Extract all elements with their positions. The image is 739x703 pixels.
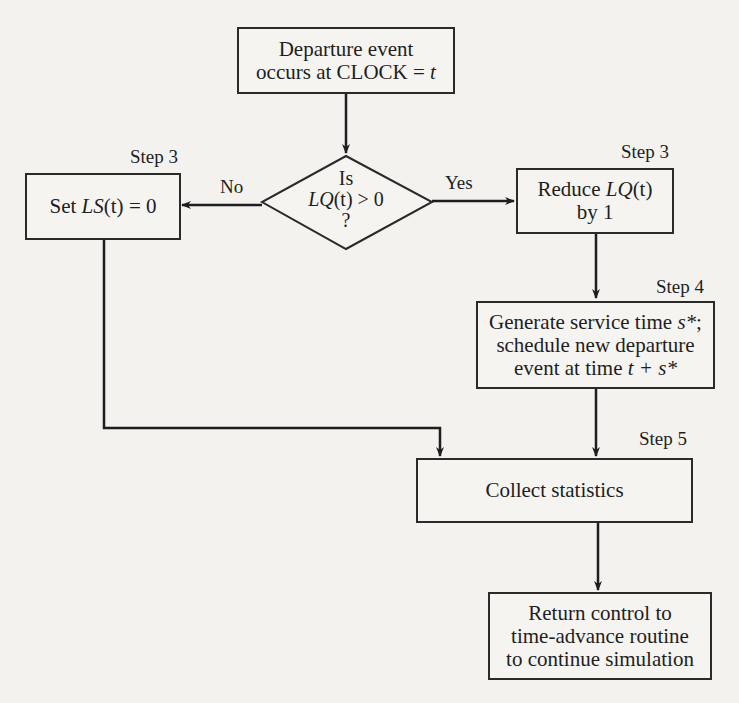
return-line1: Return control to <box>528 602 671 625</box>
decision-node-text: Is LQ(t) > 0 ? <box>276 168 416 231</box>
generate-line3: event at time t + s* <box>514 357 677 380</box>
collect-node: Collect statistics <box>416 458 693 523</box>
edge-setls-collect <box>104 240 440 456</box>
collect-text: Collect statistics <box>485 479 623 502</box>
reduce-lq-node: Reduce LQ(t) by 1 <box>516 168 674 234</box>
return-node: Return control to time-advance routine t… <box>488 592 712 680</box>
decision-line1: Is <box>276 168 416 189</box>
decision-expr: LQ(t) > 0 <box>276 189 416 210</box>
reduce-line1: Reduce LQ(t) <box>538 178 653 201</box>
step-label-collect: Step 5 <box>639 428 687 450</box>
return-line3: to continue simulation <box>506 648 694 671</box>
generate-line2: schedule new departure <box>496 334 694 357</box>
start-line2: occurs at CLOCK = t <box>256 61 436 84</box>
set-ls-text: Set LS(t) = 0 <box>50 195 157 218</box>
step-label-setls: Step 3 <box>130 146 178 168</box>
reduce-line2: by 1 <box>577 201 614 224</box>
start-line1: Departure event <box>279 38 414 61</box>
return-line2: time-advance routine <box>511 625 689 648</box>
step-label-generate: Step 4 <box>656 276 704 298</box>
start-node: Departure event occurs at CLOCK = t <box>237 27 455 94</box>
step-label-reduce: Step 3 <box>621 141 669 163</box>
no-label: No <box>220 176 243 198</box>
generate-line1: Generate service time s*; <box>489 311 702 334</box>
generate-node: Generate service time s*; schedule new d… <box>476 301 715 389</box>
set-ls-node: Set LS(t) = 0 <box>25 173 181 240</box>
decision-line3: ? <box>276 210 416 231</box>
yes-label: Yes <box>445 172 473 194</box>
